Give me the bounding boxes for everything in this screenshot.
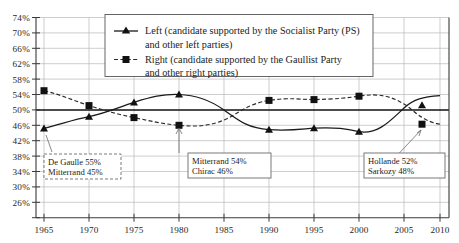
y-tick-label: 42% <box>13 136 31 146</box>
right-series-markers <box>41 87 426 129</box>
x-tick-label: 1985 <box>214 225 233 235</box>
y-tick-label: 34% <box>13 167 31 177</box>
chart-canvas: 74% 70% 66% 62% 58% 54% 50% 46% 42% 38% … <box>0 0 459 243</box>
y-tick-label: 70% <box>13 28 31 38</box>
x-tick-label: 1980 <box>169 225 188 235</box>
election-results-chart: 74% 70% 66% 62% 58% 54% 50% 46% 42% 38% … <box>0 0 459 243</box>
y-tick-label: 38% <box>13 152 31 162</box>
y-tick-label: 58% <box>13 75 31 85</box>
left-series-line <box>44 94 440 132</box>
y-tick-label: 30% <box>13 182 31 192</box>
legend-left-label-line2: and other left parties) <box>145 39 232 51</box>
x-tick-label: 1995 <box>304 225 323 235</box>
annotation-1965-line1: De Gaulle 55% <box>48 157 101 167</box>
annotation-2012: Hollande 52% Sarkozy 48% <box>364 130 445 178</box>
left-series-markers <box>40 91 426 135</box>
legend-right-label-line2: and other right parties) <box>145 67 238 79</box>
annotation-1988-line2: Chirac 46% <box>192 166 233 176</box>
annotation-1965: De Gaulle 55% Mitterrand 45% <box>44 135 121 179</box>
annotation-1988-line1: Mitterrand 54% <box>192 156 247 166</box>
y-tick-label: 46% <box>13 121 31 131</box>
annotation-2012-line1: Hollande 52% <box>368 156 417 166</box>
y-tick-label: 66% <box>13 44 31 54</box>
annotation-1988: Mitterrand 54% Chirac 46% <box>176 128 271 178</box>
x-tick-label: 2010 <box>430 225 449 235</box>
legend: Left (candidate supported by the Sociali… <box>105 15 373 80</box>
y-tick-label: 62% <box>13 59 31 69</box>
y-tick-label: 74% <box>13 13 31 23</box>
x-tick-label: 2005 <box>394 225 413 235</box>
annotation-2012-line2: Sarkozy 48% <box>368 166 414 176</box>
y-tick-label: 54% <box>13 90 31 100</box>
legend-right-square-icon <box>123 56 130 63</box>
x-tick-label: 1970 <box>79 225 98 235</box>
y-tick-label: 50% <box>13 105 31 115</box>
annotation-1965-line2: Mitterrand 45% <box>48 167 103 177</box>
right-series-line <box>44 91 440 126</box>
legend-right-label-line1: Right (candidate supported by the Gaulli… <box>145 54 343 66</box>
x-tick-label: 1990 <box>259 225 278 235</box>
x-tick-label: 1975 <box>124 225 143 235</box>
x-tick-label: 1965 <box>34 225 53 235</box>
y-tick-label: 26% <box>13 198 31 208</box>
x-tick-label: 2000 <box>349 225 368 235</box>
legend-left-label-line1: Left (candidate supported by the Sociali… <box>145 25 360 37</box>
